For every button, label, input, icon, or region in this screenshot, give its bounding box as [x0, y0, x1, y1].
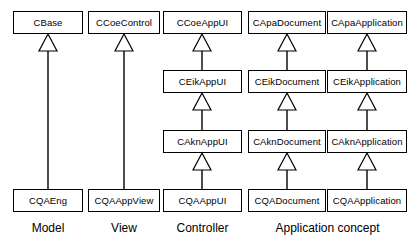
class-diagram: CBaseCQAEngCCoeControlCQAAppViewCCoeAppU…: [0, 0, 412, 248]
class-box-label: CBase: [33, 18, 62, 28]
class-box-cakndocument[interactable]: CAknDocument: [248, 130, 326, 153]
class-box-ceikappui[interactable]: CEikAppUI: [163, 70, 242, 93]
class-box-label: CCoeControl: [96, 18, 152, 28]
edge-caknapplication-cqaapplication-generalization-arrowhead-icon: [358, 153, 376, 170]
edge-ceikdocument-cakndocument: [278, 93, 296, 130]
edge-capadocument-ceikdocument-generalization-arrowhead-icon: [278, 34, 296, 51]
class-box-ccoecontrol[interactable]: CCoeControl: [88, 11, 160, 34]
edge-ccoecontrol-cqaappview-generalization-arrowhead-icon: [115, 34, 133, 51]
class-box-label: CCoeAppUI: [177, 18, 229, 28]
edge-capaapplication-ceikapplication-generalization-arrowhead-icon: [358, 34, 376, 51]
class-box-label: CEikDocument: [255, 77, 320, 87]
class-box-label: CQAAppUI: [179, 196, 227, 206]
class-box-label: CApaDocument: [253, 18, 321, 28]
edge-cbase-cqaeng: [39, 34, 57, 189]
class-box-caknapplication[interactable]: CAknApplication: [327, 130, 407, 153]
class-box-label: CAknDocument: [253, 137, 321, 147]
class-box-label: CQAEng: [29, 196, 67, 206]
class-box-label: CApaApplication: [331, 18, 403, 28]
edge-ceikapplication-caknapplication: [358, 93, 376, 130]
edge-ceikappui-caknappui: [193, 93, 211, 130]
edge-capadocument-ceikdocument: [278, 34, 296, 70]
class-box-capaapplication[interactable]: CApaApplication: [327, 11, 407, 34]
edge-ceikapplication-caknapplication-generalization-arrowhead-icon: [358, 93, 376, 110]
group-label-model: Model: [13, 222, 83, 234]
class-box-label: CAknApplication: [331, 137, 402, 147]
edge-ceikdocument-cakndocument-generalization-arrowhead-icon: [278, 93, 296, 110]
class-box-cbase[interactable]: CBase: [13, 11, 83, 34]
class-box-label: CQAAppView: [95, 196, 154, 206]
class-box-ceikdocument[interactable]: CEikDocument: [248, 70, 326, 93]
edge-cbase-cqaeng-generalization-arrowhead-icon: [39, 34, 57, 51]
class-box-cqadocument[interactable]: CQADocument: [248, 189, 326, 212]
group-label-controller: Controller: [163, 222, 242, 234]
edge-caknappui-cqaappui-generalization-arrowhead-icon: [193, 153, 211, 170]
edge-ccoecontrol-cqaappview: [115, 34, 133, 189]
class-box-cqaappview[interactable]: CQAAppView: [88, 189, 160, 212]
edge-cakndocument-cqadocument-generalization-arrowhead-icon: [278, 153, 296, 170]
class-box-cqaappui[interactable]: CQAAppUI: [163, 189, 242, 212]
edge-caknapplication-cqaapplication: [358, 153, 376, 189]
edge-caknappui-cqaappui: [193, 153, 211, 189]
class-box-label: CEikAppUI: [179, 77, 226, 87]
class-box-ccoeappui[interactable]: CCoeAppUI: [163, 11, 242, 34]
edge-capaapplication-ceikapplication: [358, 34, 376, 70]
edge-ccoeappui-ceikappui-generalization-arrowhead-icon: [193, 34, 211, 51]
class-box-label: CQADocument: [255, 196, 320, 206]
group-label-view: View: [88, 222, 160, 234]
class-box-label: CEikApplication: [333, 77, 401, 87]
edge-cakndocument-cqadocument: [278, 153, 296, 189]
edge-ceikappui-caknappui-generalization-arrowhead-icon: [193, 93, 211, 110]
class-box-label: CQAApplication: [333, 196, 401, 206]
group-label-application-concept: Application concept: [248, 222, 407, 234]
edge-ccoeappui-ceikappui: [193, 34, 211, 70]
class-box-cqaapplication[interactable]: CQAApplication: [327, 189, 407, 212]
class-box-cqaeng[interactable]: CQAEng: [13, 189, 83, 212]
class-box-label: CAknAppUI: [177, 137, 228, 147]
class-box-ceikapplication[interactable]: CEikApplication: [327, 70, 407, 93]
class-box-caknappui[interactable]: CAknAppUI: [163, 130, 242, 153]
class-box-capadocument[interactable]: CApaDocument: [248, 11, 326, 34]
